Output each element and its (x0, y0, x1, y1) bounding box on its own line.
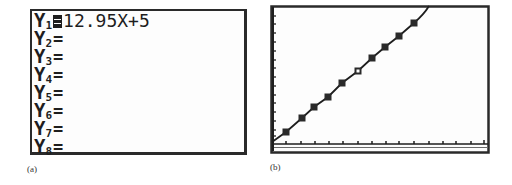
y8-letter: Y (34, 135, 45, 157)
caption-a: (a) (27, 164, 37, 174)
y2-equals[interactable]: = (53, 29, 63, 49)
y8-equals[interactable]: = (53, 137, 63, 157)
y-editor-screen: Y112.95X+5 Y2= Y3= Y4= Y5= Y6= Y7= Y8= (30, 9, 247, 155)
y8-subscript: 8 (45, 145, 52, 158)
y8-row[interactable]: Y8= (34, 137, 63, 155)
graph-frame (272, 7, 489, 153)
y5-equals[interactable]: = (53, 83, 63, 103)
y4-equals[interactable]: = (53, 65, 63, 85)
open-marker (357, 70, 360, 73)
y1-row[interactable]: Y112.95X+5 (34, 11, 150, 29)
selected-equals-icon[interactable] (53, 15, 62, 28)
y3-equals[interactable]: = (53, 47, 63, 67)
y1-expression[interactable]: 12.95X+5 (63, 10, 150, 31)
caption-b: (b) (270, 162, 281, 172)
y6-equals[interactable]: = (53, 101, 63, 121)
graph-screen (270, 5, 490, 154)
y7-equals[interactable]: = (53, 119, 63, 139)
